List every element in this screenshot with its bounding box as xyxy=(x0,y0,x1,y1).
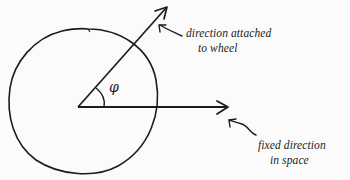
diagram-canvas: φ direction attached to wheel fixed dire… xyxy=(0,0,350,180)
fixed-pointer-arrowhead-icon xyxy=(229,119,236,127)
fixed-label-line1: fixed direction xyxy=(258,138,326,153)
angle-arc xyxy=(96,88,104,107)
attached-direction-vector xyxy=(78,8,166,107)
fixed-pointer-arrow-icon xyxy=(229,120,256,135)
attached-pointer-arrow-icon xyxy=(160,25,182,36)
attached-label-line2: to wheel xyxy=(186,41,271,56)
fixed-label-line2: in space xyxy=(258,153,326,168)
attached-label-line1: direction attached xyxy=(186,26,271,41)
attached-direction-label: direction attached to wheel xyxy=(186,26,271,56)
fixed-direction-label: fixed direction in space xyxy=(258,138,326,168)
angle-phi-label: φ xyxy=(109,79,119,95)
